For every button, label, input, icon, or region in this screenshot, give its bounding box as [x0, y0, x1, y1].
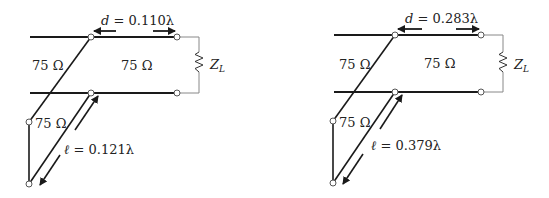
load-label: ZL: [209, 57, 225, 74]
node: [88, 90, 94, 96]
node: [392, 89, 398, 95]
l-arrow-up: [380, 95, 402, 129]
resistor-icon: [195, 52, 203, 72]
l-label: ℓ = 0.121λ: [64, 142, 134, 157]
stub-conductor-1: [29, 37, 91, 122]
line-impedance-left: 75 Ω: [32, 58, 63, 73]
load-wire: [177, 37, 199, 52]
node: [392, 32, 398, 38]
load-label: ZL: [513, 57, 529, 74]
node: [174, 90, 180, 96]
diagram-right: d = 0.283λ 75 Ω 75 Ω 75 Ω ℓ = 0.379λ ZL: [330, 11, 529, 186]
l-arrow-down: [40, 155, 60, 185]
line-impedance-main: 75 Ω: [121, 58, 152, 73]
resistor-icon: [499, 52, 507, 72]
node: [174, 34, 180, 40]
d-label: d = 0.110λ: [101, 13, 174, 28]
diagram-left: d = 0.110λ 75 Ω 75 Ω 75 Ω ℓ = 0.121λ ZL: [26, 13, 225, 187]
stub-impedance: 75 Ω: [339, 115, 370, 130]
node: [26, 119, 32, 125]
l-label: ℓ = 0.379λ: [371, 138, 441, 153]
line-impedance-left: 75 Ω: [339, 57, 370, 72]
node: [330, 180, 336, 186]
line-impedance-main: 75 Ω: [424, 56, 455, 71]
stub-matching-diagrams: d = 0.110λ 75 Ω 75 Ω 75 Ω ℓ = 0.121λ ZL …: [0, 0, 549, 198]
load-wire: [481, 72, 503, 92]
node: [478, 89, 484, 95]
node: [478, 32, 484, 38]
load-wire: [481, 35, 503, 52]
load-wire: [177, 72, 199, 93]
l-arrow-down: [343, 154, 363, 184]
stub-impedance: 75 Ω: [35, 116, 66, 131]
l-arrow-up: [75, 96, 98, 130]
stub-conductor-2: [29, 93, 91, 184]
stub-conductor-1: [333, 35, 395, 121]
node: [330, 118, 336, 124]
node: [26, 181, 32, 187]
d-label: d = 0.283λ: [405, 11, 478, 26]
node: [88, 34, 94, 40]
